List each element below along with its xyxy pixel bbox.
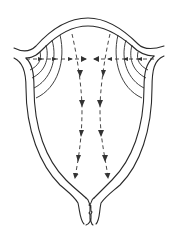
diagram-canvas [0, 0, 175, 230]
left-cornu-arcs [30, 35, 62, 98]
horizontal-arrows [26, 57, 154, 61]
uterus-diagram [0, 0, 175, 230]
vertical-arrows [72, 34, 110, 178]
inner-cavity [26, 26, 154, 225]
right-cornu-arcs [116, 35, 148, 98]
